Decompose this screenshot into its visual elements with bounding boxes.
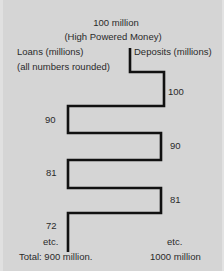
- loans-total: Total: 900 million.: [19, 251, 92, 262]
- money-multiplier-diagram: 100 million (High Powered Money) Loans (…: [0, 0, 224, 271]
- deposit-value-2: 90: [170, 140, 181, 151]
- loans-etc: etc.: [43, 236, 58, 247]
- deposit-value-1: 100: [168, 86, 184, 97]
- loan-value-1: 90: [45, 114, 56, 125]
- deposit-value-3: 81: [170, 194, 181, 205]
- header-amount: 100 million: [93, 17, 138, 28]
- deposits-etc: etc.: [167, 236, 182, 247]
- deposits-title: Deposits (millions): [134, 46, 212, 57]
- loans-note: (all numbers rounded): [17, 61, 110, 72]
- header-subtitle: (High Powered Money): [64, 31, 161, 42]
- loans-title: Loans (millions): [17, 46, 84, 57]
- loan-value-3: 72: [46, 220, 57, 231]
- deposits-total: 1000 million: [150, 251, 201, 262]
- loan-value-2: 81: [46, 167, 57, 178]
